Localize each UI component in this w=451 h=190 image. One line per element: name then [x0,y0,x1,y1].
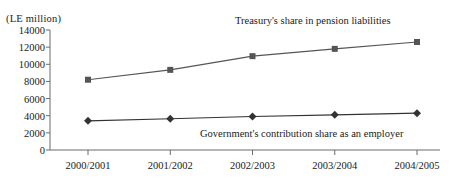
x-axis-tick-label: 2004/2005 [395,160,440,171]
series-annotation-government: Government's contribution share as an em… [200,128,403,139]
data-point-marker [84,117,92,125]
data-point-marker [331,111,339,119]
series-line [88,42,417,80]
data-point-marker [250,53,256,59]
data-point-marker [166,115,174,123]
chart-figure: (LE million) 020004000600080001000012000… [0,0,451,190]
x-axis-ticks [88,150,417,155]
y-axis-ticks [46,30,50,150]
x-axis-tick-label: 2003/2004 [312,160,357,171]
data-series-layer [84,39,421,125]
data-point-marker [413,109,421,117]
data-point-marker [414,39,420,45]
x-axis-tick-label: 2000/2001 [66,160,111,171]
data-point-marker [85,77,91,83]
series-government [84,109,421,125]
data-point-marker [249,113,257,121]
x-axis-tick-label: 2001/2002 [148,160,193,171]
x-axis-tick-label: 2002/2003 [230,160,275,171]
series-annotation-treasury: Treasury's share in pension liabilities [235,15,391,26]
data-point-marker [332,46,338,52]
data-point-marker [167,67,173,73]
series-treasury [85,39,420,83]
